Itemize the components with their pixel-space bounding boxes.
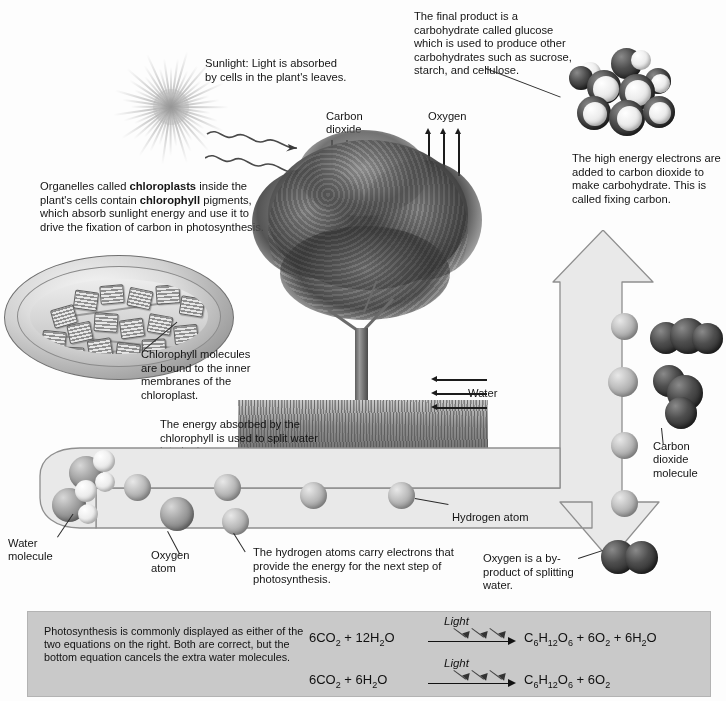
label-hydrogen-atom: Hydrogen atom [452, 511, 529, 524]
label-water-molecule-line1: Water [8, 537, 53, 550]
oxygen-molecule [601, 540, 661, 576]
hydrogen-atom-4 [300, 482, 327, 509]
organelles-bold-chlorophyll: chlorophyll [140, 194, 200, 206]
equation-1-left: 6CO2 + 12H2O [309, 630, 395, 648]
equation-1-arrow: Light [428, 624, 520, 650]
annotation-sunlight: Sunlight: Light is absorbed by cells in … [205, 57, 350, 84]
annotation-high-energy-electrons: The high energy electrons are added to c… [572, 152, 722, 206]
equation-2-light-label: Light [444, 657, 469, 669]
annotation-oxygen-byproduct: Oxygen is a by-product of splitting wate… [483, 552, 583, 593]
carbon-dioxide-molecule-1 [650, 318, 724, 358]
glucose-molecule [561, 48, 691, 148]
equation-panel: Photosynthesis is commonly displayed as … [27, 611, 711, 697]
label-water-molecule: Water molecule [8, 537, 53, 564]
organelles-bold-chloroplasts: chloroplasts [130, 180, 197, 192]
equation-2-right: C6H12O6 + 6O2 [524, 672, 610, 690]
equation-2-arrow: Light [428, 666, 520, 692]
annotation-final-product: The final product is a carbohydrate call… [414, 10, 584, 78]
oxygen-atom [160, 497, 194, 531]
label-oxygen-atom: Oxygen atom [151, 549, 190, 576]
hydrogen-atom-5 [388, 482, 415, 509]
equation-1-right: C6H12O6 + 6O2 + 6H2O [524, 630, 657, 648]
water-molecule [52, 480, 104, 528]
label-carbon-dioxide-molecule: Carbon dioxide molecule [653, 440, 698, 480]
label-co2-molecule-line1: Carbon [653, 440, 698, 453]
label-oxygen-atom-line1: Oxygen [151, 549, 190, 562]
hydrogen-atom-3 [222, 508, 249, 535]
label-co2-molecule-line2: dioxide [653, 453, 698, 466]
equation-1-light-label: Light [444, 615, 469, 627]
annotation-hydrogen-carry: The hydrogen atoms carry electrons that … [253, 546, 463, 587]
label-oxygen: Oxygen [428, 110, 467, 123]
label-oxygen-atom-line2: atom [151, 562, 190, 575]
carbon-dioxide-molecule-2 [653, 365, 715, 427]
equation-panel-note: Photosynthesis is commonly displayed as … [44, 625, 319, 665]
hydrogen-atom-7 [608, 367, 638, 397]
hydrogen-atom-8 [611, 432, 638, 459]
hydrogen-atom-6 [611, 313, 638, 340]
diagram-canvas: Sunlight: Light is absorbed by cells in … [0, 0, 726, 701]
label-carbon-dioxide-line1: Carbon [326, 110, 363, 123]
hydrogen-atom-9 [611, 490, 638, 517]
hydrogen-atom-1 [124, 474, 151, 501]
label-water-molecule-line2: molecule [8, 550, 53, 563]
equation-2-left: 6CO2 + 6H2O [309, 672, 387, 690]
annotation-organelles: Organelles called chloroplasts inside th… [40, 180, 268, 234]
organelles-pre: Organelles called [40, 180, 130, 192]
label-co2-molecule-line3: molecule [653, 467, 698, 480]
hydrogen-atom-2 [214, 474, 241, 501]
